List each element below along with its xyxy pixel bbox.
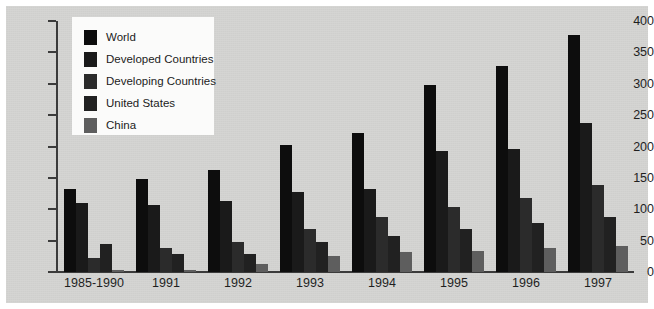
x-axis-tick-label: 1992: [202, 277, 274, 290]
bar: [184, 270, 196, 273]
legend-swatch-icon: [84, 52, 97, 67]
legend-swatch-icon: [84, 118, 97, 133]
bar: [136, 179, 148, 272]
bar: [532, 223, 544, 272]
bar: [496, 66, 508, 272]
legend-item-label: Developed Countries: [106, 54, 213, 66]
bar: [304, 229, 316, 272]
bar: [604, 217, 616, 272]
bar: [568, 35, 580, 272]
bar: [160, 248, 172, 272]
bar: [352, 133, 364, 272]
bar-group: [496, 21, 556, 272]
bar-group: [280, 21, 340, 272]
y-axis-tick: [48, 83, 56, 85]
bar: [64, 189, 76, 272]
bar-group: [208, 21, 268, 272]
bar: [544, 248, 556, 272]
x-axis-tick-label: 1994: [346, 277, 418, 290]
bar: [400, 252, 412, 272]
x-axis-tick-label: 1995: [418, 277, 490, 290]
legend-item: Developing Countries: [84, 72, 216, 91]
x-axis-tick-label: 1997: [562, 277, 634, 290]
bar: [328, 256, 340, 272]
bar: [508, 149, 520, 272]
bar-group: [424, 21, 484, 272]
legend-swatch-icon: [84, 30, 97, 45]
x-axis-tick-label: 1996: [490, 277, 562, 290]
y-axis-tick: [48, 240, 56, 242]
legend-item: China: [84, 116, 216, 135]
bar: [472, 251, 484, 272]
bar: [316, 242, 328, 272]
y-axis-tick: [48, 20, 56, 22]
bar: [244, 254, 256, 272]
bar-chart: 400350300250200150100500 1985-1990199119…: [0, 0, 654, 309]
y-axis-tick: [48, 114, 56, 116]
bar: [148, 205, 160, 272]
x-axis-tick-label: 1985-1990: [58, 277, 130, 290]
bar: [76, 203, 88, 272]
bar: [448, 207, 460, 272]
bar: [436, 151, 448, 272]
legend-item-label: China: [106, 120, 136, 132]
x-axis-tick-label: 1991: [130, 277, 202, 290]
x-axis-tick-label: 1993: [274, 277, 346, 290]
bar: [256, 264, 268, 272]
legend-item-label: World: [106, 32, 136, 44]
bar-group: [352, 21, 412, 272]
legend-swatch-icon: [84, 74, 97, 89]
y-axis-tick: [48, 177, 56, 179]
bar: [520, 198, 532, 272]
legend-swatch-icon: [84, 96, 97, 111]
bar: [292, 192, 304, 272]
bar: [172, 254, 184, 272]
bar: [112, 270, 124, 273]
y-axis-tick: [48, 271, 56, 273]
bar: [424, 85, 436, 272]
bar: [580, 123, 592, 272]
bar: [220, 201, 232, 272]
y-axis-tick: [48, 208, 56, 210]
bar: [616, 246, 628, 272]
y-axis-tick: [48, 146, 56, 148]
bar: [364, 189, 376, 272]
bar-group: [568, 21, 628, 272]
legend-item: Developed Countries: [84, 50, 216, 69]
legend-item: United States: [84, 94, 216, 113]
bar: [280, 145, 292, 272]
bar: [388, 236, 400, 272]
bar: [460, 229, 472, 272]
bar: [592, 185, 604, 272]
bar: [208, 170, 220, 272]
legend-item-label: United States: [106, 98, 175, 110]
bar: [376, 217, 388, 272]
legend-item-label: Developing Countries: [106, 76, 216, 88]
bar: [232, 242, 244, 272]
y-axis-tick: [48, 51, 56, 53]
bar: [100, 244, 112, 272]
legend-item: World: [84, 28, 216, 47]
bar: [88, 258, 100, 272]
chart-legend: WorldDeveloped CountriesDeveloping Count…: [72, 17, 214, 135]
